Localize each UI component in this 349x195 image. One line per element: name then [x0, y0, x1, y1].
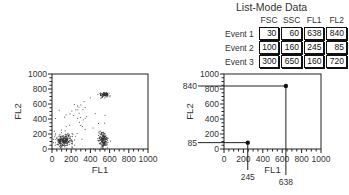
scatter-dot [70, 114, 71, 115]
scatter-dot [104, 143, 105, 144]
scatter-dot [98, 94, 99, 95]
scatter-dot [101, 141, 102, 142]
scatter-dot [102, 142, 103, 143]
scatter-dot [105, 135, 106, 136]
scatter-dot [98, 135, 99, 136]
scatter-dot [75, 136, 76, 137]
scatter-dot [82, 126, 83, 127]
scatter-dot [77, 118, 78, 119]
scatter-dot [101, 98, 102, 99]
scatter-dot [106, 137, 107, 138]
scatter-dot [99, 131, 100, 132]
scatter-dot [68, 135, 69, 136]
scatter-dot [64, 117, 65, 118]
scatter-dot [104, 98, 105, 99]
plot-frame [224, 74, 321, 149]
x-tick-label: 600 [275, 154, 289, 164]
scatter-dot [105, 149, 106, 150]
scatter-dot [55, 118, 56, 119]
scatter-dot [53, 149, 54, 150]
scatter-dot [82, 139, 83, 140]
x-value-label: 245 [241, 172, 255, 182]
scatter-dot [62, 141, 63, 142]
scatter-dot [97, 138, 98, 139]
scatter-dot [104, 144, 105, 145]
scatter-dot [107, 94, 108, 95]
scatter-dot [77, 133, 78, 134]
scatter-dot [67, 148, 68, 149]
scatter-dot [83, 109, 84, 110]
scatter-dot [104, 136, 105, 137]
scatter-dot [65, 145, 66, 146]
scatter-dot [70, 140, 71, 141]
scatter-dot [53, 139, 54, 140]
y-value-label: 85 [188, 138, 198, 148]
scatter-dot [85, 129, 86, 130]
scatter-dot [110, 96, 111, 97]
scatter-dot [100, 142, 101, 143]
scatter-dot [101, 144, 102, 145]
scatter-dot [68, 134, 69, 135]
scatter-dot [103, 133, 104, 134]
scatter-dot [80, 105, 81, 106]
scatter-dot [104, 135, 105, 136]
scatter-dot [107, 96, 108, 97]
scatter-dot [100, 140, 101, 141]
scatter-dot [61, 132, 62, 133]
scatter-dot [63, 140, 64, 141]
scatter-dot [58, 141, 59, 142]
y-tick-label: 400 [205, 114, 219, 124]
scatter-dot [101, 134, 102, 135]
scatter-dot [104, 140, 105, 141]
scatter-dot [59, 143, 60, 144]
scatter-dot [67, 140, 68, 141]
scatter-dot [60, 145, 61, 146]
scatter-dot [55, 145, 56, 146]
y-tick-label: 800 [33, 84, 47, 94]
scatter-dot [107, 142, 108, 143]
scatter-dot [102, 96, 103, 97]
scatter-dot [74, 140, 75, 141]
scatter-dot [64, 143, 65, 144]
scatter-dot [100, 143, 101, 144]
scatter-dot [70, 138, 71, 139]
scatter-dot [101, 97, 102, 98]
scatter-dot [102, 138, 103, 139]
scatter-dot [104, 138, 105, 139]
scatter-dot [72, 146, 73, 147]
scatter-dot [102, 134, 103, 135]
scatter-dot [69, 144, 70, 145]
scatter-dot [106, 97, 107, 98]
scatter-dot [63, 145, 64, 146]
scatter-dot [98, 140, 99, 141]
scatter-dot [77, 106, 78, 107]
scatter-dot [71, 111, 72, 112]
scatter-dot [109, 93, 110, 94]
scatter-dot [70, 136, 71, 137]
scatter-dot [71, 139, 72, 140]
scatter-dot [62, 140, 63, 141]
scatter-dot [102, 132, 103, 133]
scatter-dot [58, 144, 59, 145]
scatter-dot [57, 140, 58, 141]
scatter-cluster [55, 97, 105, 134]
scatter-dot [100, 94, 101, 95]
scatter-dot [63, 139, 64, 140]
scatter-dot [107, 147, 108, 148]
x-value-label: 638 [279, 177, 293, 187]
scatter-dot [100, 131, 101, 132]
scatter-dot [62, 136, 63, 137]
y-axis-label: FL2 [12, 103, 23, 119]
x-tick-label: 0 [50, 154, 55, 164]
scatter-dot [100, 92, 101, 93]
scatter-dot [72, 134, 73, 135]
scatter-dot [62, 142, 63, 143]
scatter-dot [104, 94, 105, 95]
scatter-dot [102, 139, 103, 140]
scatter-dot [67, 142, 68, 143]
scatter-dot [69, 125, 70, 126]
scatter-dot [55, 135, 56, 136]
x-tick-label: 0 [222, 154, 227, 164]
scatter-dot [102, 138, 103, 139]
scatter-dot [108, 142, 109, 143]
